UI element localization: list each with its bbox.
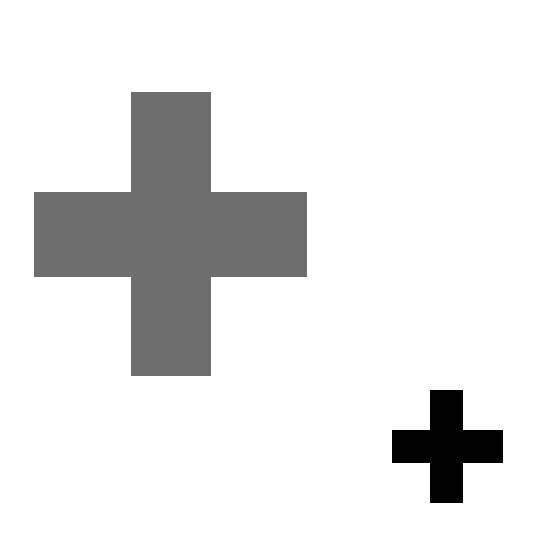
small-cross-horizontal-bar bbox=[392, 430, 503, 463]
large-cross-horizontal-bar bbox=[34, 192, 307, 277]
